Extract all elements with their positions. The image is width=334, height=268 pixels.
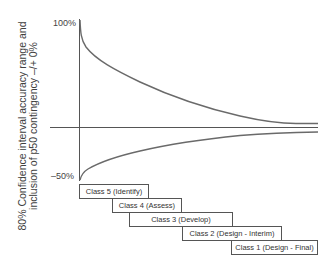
class-5-box: Class 5 (Identify) [79,184,149,199]
class-1-box: Class 1 (Design - Final) [231,240,318,255]
class-3-box: Class 3 (Develop) [129,212,233,227]
y-tick-minus-50: –50% [51,171,74,181]
y-axis-title-line-2: inclusion of p50 contingency –/+ 0% [28,22,39,231]
class-2-box: Class 2 (Design - Interim) [182,226,282,241]
y-tick-100: 100% [53,18,76,28]
lower-bound-curve [80,132,318,180]
upper-bound-curve [80,20,318,124]
class-4-box: Class 4 (Assess) [112,198,182,213]
chart-canvas [0,0,334,268]
